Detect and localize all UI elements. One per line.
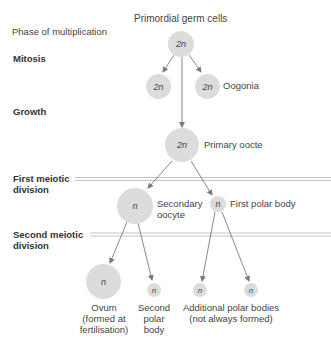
- phase-first-meiotic-label: First meiotic division: [13, 173, 70, 195]
- cell-additional-polar-1: n: [193, 283, 207, 297]
- phase-first-meiotic-line2: division: [13, 184, 70, 195]
- arrow-primary-to-secondary: [148, 161, 172, 188]
- label-secondary-oocyte-line2: oocyte: [157, 209, 202, 220]
- cell-secondary-oocyte: n: [117, 188, 153, 224]
- phase-second-meiotic-label: Second meiotic division: [13, 229, 83, 251]
- phase-second-meiotic-line2: division: [13, 240, 83, 251]
- label-oogonia: Oogonia: [223, 80, 259, 91]
- label-ovum-line1: Ovum: [73, 302, 135, 313]
- phase-second-meiotic-line1: Second meiotic: [13, 229, 83, 240]
- arrow-primordial-to-right: [189, 55, 201, 72]
- arrow-secondary-to-ovum: [110, 222, 127, 263]
- label-ovum: Ovum (formed at fertilisation): [73, 302, 135, 335]
- label-second-polar-line3: body: [136, 324, 172, 335]
- cell-mitosis-left: 2n: [146, 74, 171, 99]
- label-first-polar-body: First polar body: [230, 198, 295, 209]
- label-second-polar-line2: polar: [136, 313, 172, 324]
- connector-layer: [0, 0, 331, 339]
- phase-multiplication-label: Phase of multiplication: [12, 26, 107, 37]
- label-additional-polar-bodies: Additional polar bodies (not always form…: [176, 302, 286, 324]
- cell-additional-polar-2: n: [244, 283, 258, 297]
- cell-oogonia: 2n: [195, 74, 220, 99]
- cell-second-polar-body: n: [147, 283, 161, 297]
- cell-primordial: 2n: [168, 31, 194, 57]
- label-secondary-oocyte-line1: Secondary: [157, 198, 202, 209]
- label-secondary-oocyte: Secondary oocyte: [157, 198, 202, 220]
- cell-first-polar-body: n: [210, 196, 226, 212]
- arrow-firstpolar-to-add2: [222, 212, 249, 281]
- arrow-secondary-to-secondpolar: [138, 223, 152, 280]
- arrow-firstpolar-to-add1: [202, 212, 215, 281]
- label-additional-line1: Additional polar bodies: [176, 302, 286, 313]
- label-ovum-line3: fertilisation): [73, 324, 135, 335]
- cell-ovum: n: [86, 264, 121, 299]
- cell-primary-oocyte: 2n: [165, 128, 199, 162]
- phase-growth-label: Growth: [13, 106, 46, 117]
- phase-mitosis-label: Mitosis: [13, 53, 46, 64]
- label-ovum-line2: (formed at: [73, 313, 135, 324]
- arrow-primordial-to-left: [163, 55, 174, 72]
- label-second-polar-body: Second polar body: [136, 302, 172, 335]
- arrow-primary-to-firstpolar: [191, 161, 212, 195]
- label-second-polar-line1: Second: [136, 302, 172, 313]
- phase-first-meiotic-line1: First meiotic: [13, 173, 70, 184]
- label-additional-line2: (not always formed): [176, 313, 286, 324]
- label-primary-oocyte: Primary oocte: [204, 139, 263, 150]
- diagram-title: Primordial germ cells: [134, 13, 227, 24]
